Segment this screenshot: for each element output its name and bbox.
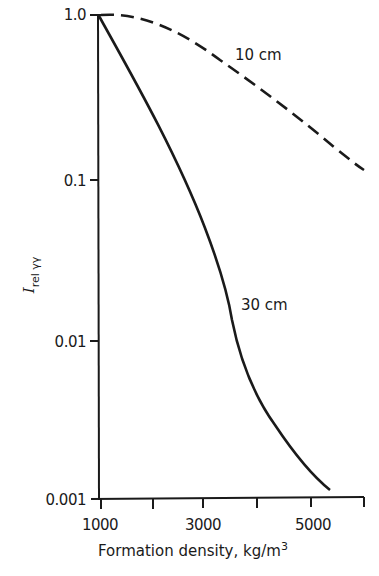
y-tick-label: 0.1 xyxy=(64,172,86,190)
y-axis-title-subscript: rel γγ xyxy=(29,256,42,287)
y-axis xyxy=(98,15,99,500)
svg-text:Irel γγ: Irel γγ xyxy=(20,256,42,294)
x-tick-labels: 1000 3000 5000 xyxy=(82,516,331,534)
x-tick-label: 3000 xyxy=(185,516,221,534)
chart: 1.0 0.1 0.01 0.001 1000 3000 5000 Format… xyxy=(0,0,379,576)
y-tick-label: 0.01 xyxy=(55,333,86,351)
y-axis-title: Irel γγ xyxy=(20,256,42,294)
series-30cm-curve xyxy=(99,16,330,490)
x-axis-title-superscript: 3 xyxy=(281,540,288,553)
y-tick-labels: 1.0 0.1 0.01 0.001 xyxy=(46,6,86,509)
x-axis xyxy=(91,497,364,499)
y-tick-label: 1.0 xyxy=(64,6,86,24)
axes xyxy=(90,15,364,509)
x-tick-label: 5000 xyxy=(295,516,331,534)
y-tick-label: 0.001 xyxy=(46,491,86,509)
x-tick-label: 1000 xyxy=(82,516,118,534)
x-axis-title: Formation density, kg/m3 xyxy=(98,540,288,560)
series-30cm-label: 30 cm xyxy=(241,296,288,314)
series-10cm-label: 10 cm xyxy=(235,46,282,64)
x-axis-title-text: Formation density, kg/m xyxy=(98,542,281,560)
